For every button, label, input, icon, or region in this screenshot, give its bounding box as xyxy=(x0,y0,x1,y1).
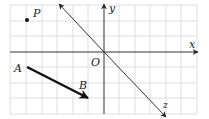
z-axis-label: z xyxy=(162,100,168,110)
y-axis-label: y xyxy=(108,2,116,15)
z-axis-negative xyxy=(59,4,104,52)
x-axis-label: x xyxy=(189,38,196,51)
origin-label: O xyxy=(91,56,100,69)
point-p-label: P xyxy=(32,7,41,20)
point-b-label: B xyxy=(78,79,87,92)
point-p xyxy=(25,18,29,22)
coordinate-diagram: x y z O P A B xyxy=(0,0,209,119)
point-a-label: A xyxy=(13,62,22,75)
